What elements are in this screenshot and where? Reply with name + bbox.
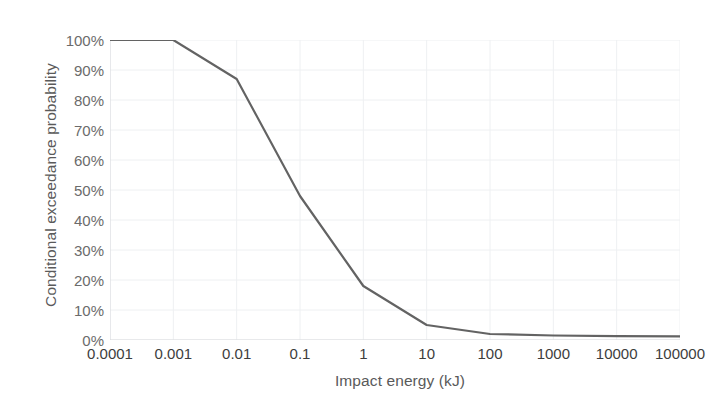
x-tick-label: 1000 xyxy=(537,345,570,362)
y-tick-label: 90% xyxy=(40,62,104,79)
data-line-0 xyxy=(110,40,680,336)
x-axis-tick-labels: 0.00010.0010.010.1110100100010000100000 xyxy=(0,345,720,371)
y-tick-label: 30% xyxy=(40,242,104,259)
x-tick-label: 10000 xyxy=(596,345,638,362)
x-tick-label: 0.001 xyxy=(155,345,193,362)
y-tick-label: 60% xyxy=(40,152,104,169)
x-tick-label: 0.1 xyxy=(290,345,311,362)
chart-page: Conditional exceedance probability 0%10%… xyxy=(0,0,720,412)
y-tick-label: 50% xyxy=(40,182,104,199)
y-tick-label: 80% xyxy=(40,92,104,109)
data-series xyxy=(110,40,680,336)
y-tick-label: 40% xyxy=(40,212,104,229)
x-tick-label: 100 xyxy=(477,345,502,362)
x-tick-label: 10 xyxy=(418,345,435,362)
y-tick-label: 70% xyxy=(40,122,104,139)
y-tick-label: 100% xyxy=(40,32,104,49)
plot-area xyxy=(110,40,680,340)
gridlines-horizontal xyxy=(110,40,680,340)
y-tick-label: 10% xyxy=(40,302,104,319)
x-tick-label: 0.0001 xyxy=(87,345,133,362)
chart-svg xyxy=(110,40,680,340)
x-tick-label: 0.01 xyxy=(222,345,251,362)
y-tick-label: 20% xyxy=(40,272,104,289)
x-tick-label: 100000 xyxy=(655,345,705,362)
x-tick-label: 1 xyxy=(359,345,367,362)
x-axis-title: Impact energy (kJ) xyxy=(110,372,690,390)
